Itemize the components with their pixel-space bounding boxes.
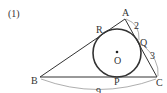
label-o: O — [114, 55, 121, 66]
problem-number: (1) — [8, 8, 20, 20]
incircle-diagram: (1) A B C P Q R O 2 3 9 — [0, 0, 167, 93]
label-p: P — [114, 76, 120, 87]
center-point-o — [116, 51, 119, 54]
label-b: B — [31, 75, 38, 86]
label-c: C — [156, 77, 163, 88]
length-bc: 9 — [96, 86, 101, 93]
length-qc: 3 — [150, 50, 155, 61]
label-r: R — [96, 24, 103, 35]
label-q: Q — [140, 37, 148, 48]
label-a: A — [122, 7, 130, 18]
length-aq: 2 — [134, 20, 139, 31]
